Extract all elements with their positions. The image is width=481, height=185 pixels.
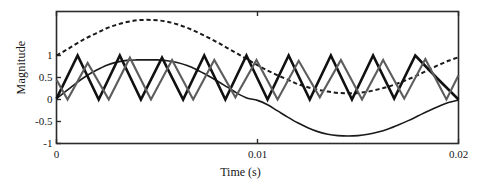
series-fundamental-sine [57,60,459,136]
y-axis-label: Magnitude [14,20,29,116]
x-tick-label: 0 [27,148,87,160]
x-tick-label: 0.02 [429,148,481,160]
figure-chart-waveforms: Magnitude Time (s) -1-0.500.51 00.010.02 [0,0,481,185]
y-tick-label: 0.5 [39,71,53,83]
y-tick-label: -0.5 [35,115,52,127]
y-tick-label: 1 [47,49,53,61]
x-tick-label: 0.01 [228,148,288,160]
y-tick-label: 0 [47,93,53,105]
x-axis-label: Time (s) [0,165,481,180]
data-series-layer [57,20,459,136]
